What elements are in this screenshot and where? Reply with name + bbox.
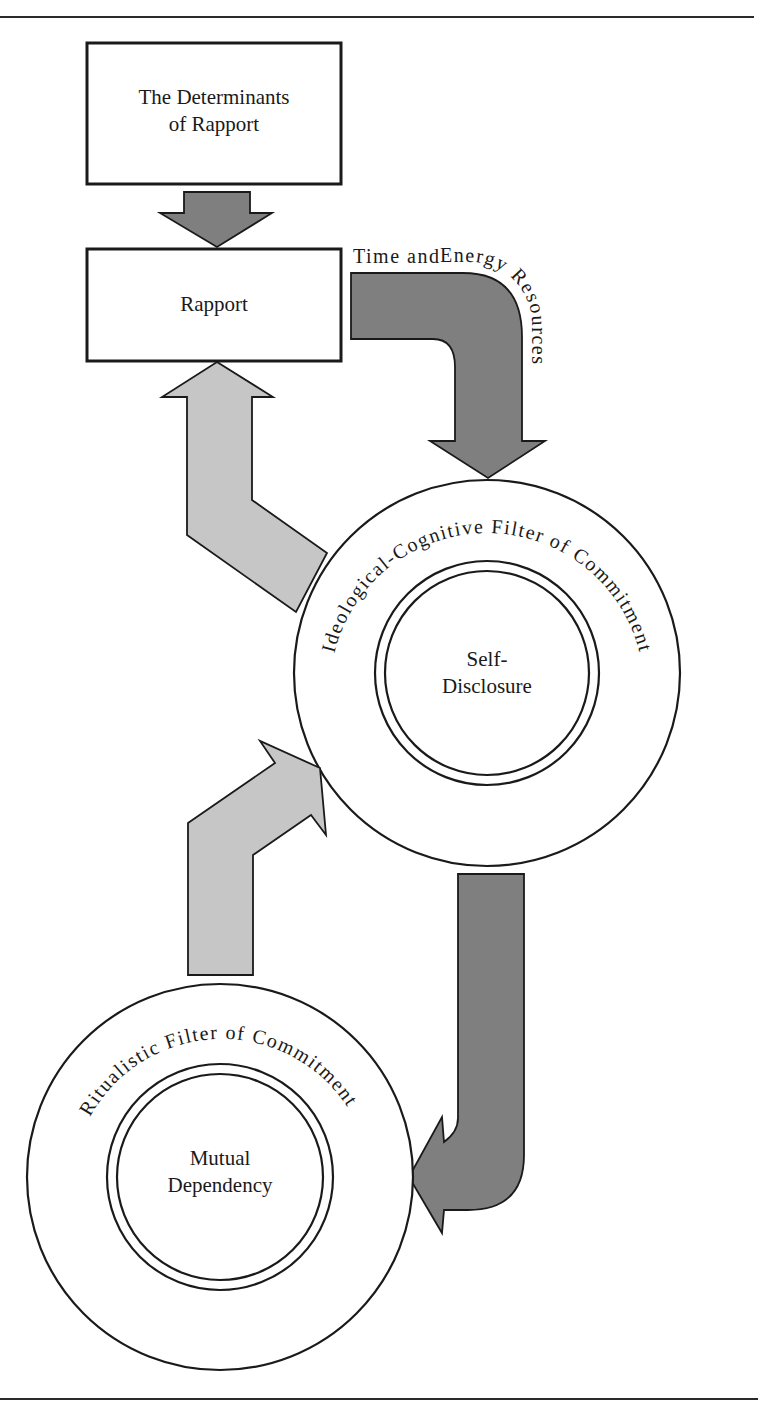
arrow-self-disclosure-to-mutual-dependency <box>409 874 524 1233</box>
arrow-determinants-to-rapport <box>160 192 272 247</box>
determinants-label-line2: of Rapport <box>169 112 260 136</box>
rapport-label: Rapport <box>180 292 248 316</box>
mutual-dependency-label-line2: Dependency <box>168 1173 273 1197</box>
arrow-mutual-dependency-to-self-disclosure <box>188 741 326 975</box>
mutual-dependency-label-line1: Mutual <box>190 1146 251 1170</box>
arrow-rapport-to-self-disclosure <box>351 273 545 478</box>
self-disclosure-label-line2: Disclosure <box>442 674 532 698</box>
edge-label-time: Time and <box>353 245 440 267</box>
ritualistic-filter-node: Ritualistic Filter of Commitment Mutual … <box>27 984 413 1370</box>
commitment-diagram: The Determinants of Rapport Rapport Time… <box>0 0 782 1419</box>
arrow-self-disclosure-to-rapport <box>162 362 327 612</box>
self-disclosure-label-line1: Self- <box>467 647 508 671</box>
rapport-node: Rapport <box>87 249 341 361</box>
determinants-label-line1: The Determinants <box>138 85 289 109</box>
ideological-filter-node: Ideological-Cognitive Filter of Commitme… <box>294 480 680 866</box>
determinants-node: The Determinants of Rapport <box>87 43 341 184</box>
self-disclosure-ring-inner <box>385 571 589 775</box>
